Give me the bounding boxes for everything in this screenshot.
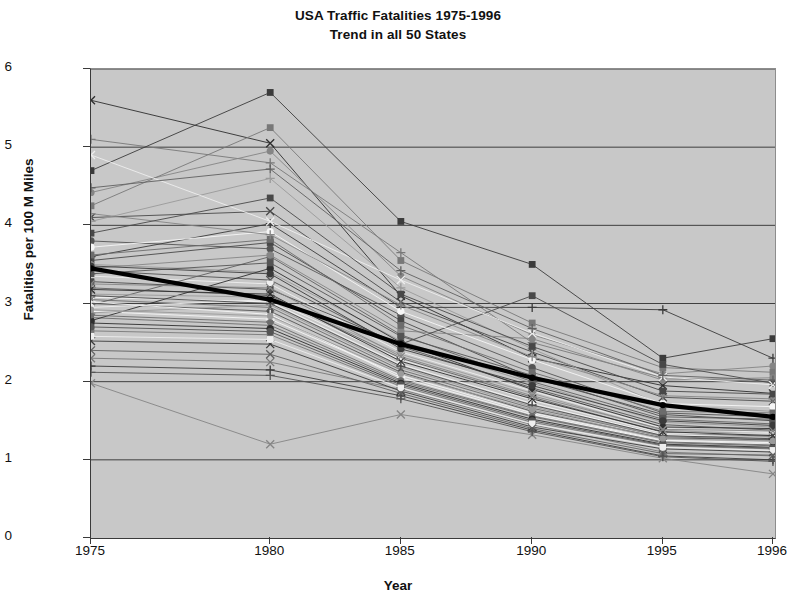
x-marker xyxy=(91,151,95,159)
y-axis-tick-mark xyxy=(83,381,90,382)
plus-marker xyxy=(528,303,537,312)
y-axis-tick-mark xyxy=(83,537,90,538)
plus-marker xyxy=(91,362,96,371)
square-marker xyxy=(267,89,274,96)
square-marker xyxy=(659,361,666,368)
series-path xyxy=(91,294,773,435)
y-axis-tick-mark xyxy=(83,459,90,460)
dot-marker xyxy=(267,296,273,302)
dot-marker xyxy=(398,371,404,377)
circle-marker xyxy=(769,362,775,369)
series-path xyxy=(91,100,773,393)
dot-marker xyxy=(529,375,535,381)
chart-subtitle: Trend in all 50 States xyxy=(0,25,796,44)
series-line xyxy=(91,253,775,427)
square-marker xyxy=(91,333,94,340)
square-marker xyxy=(397,291,404,298)
x-axis-tick-label: 1990 xyxy=(486,543,576,558)
series-path xyxy=(91,300,773,434)
circle-marker xyxy=(267,245,274,252)
dot-marker xyxy=(660,436,666,442)
series-line xyxy=(91,237,775,420)
square-marker xyxy=(770,391,775,398)
x-axis-tick-label: 1996 xyxy=(727,543,796,558)
series-line xyxy=(91,319,775,450)
plus-marker xyxy=(768,354,775,363)
plus-marker xyxy=(396,266,405,275)
chart-title-block: USA Traffic Fatalities 1975-1996 Trend i… xyxy=(0,6,796,44)
circle-marker xyxy=(267,270,274,277)
circle-marker xyxy=(91,244,95,251)
y-axis-tick-mark xyxy=(83,68,90,69)
dot-marker xyxy=(398,341,404,347)
plus-marker xyxy=(396,248,405,257)
circle-marker xyxy=(267,251,274,258)
series-line xyxy=(91,290,775,439)
dot-marker xyxy=(529,407,535,413)
y-axis-tick-mark xyxy=(83,303,90,304)
square-marker xyxy=(529,261,536,268)
plus-marker xyxy=(266,371,275,380)
y-axis-label: Fatalities per 100 M Miles xyxy=(21,120,36,360)
square-marker xyxy=(91,167,94,174)
square-marker xyxy=(91,230,94,237)
square-marker xyxy=(659,388,666,395)
y-axis-tick-label: 6 xyxy=(0,59,12,74)
circle-marker xyxy=(529,382,536,389)
series-path xyxy=(91,151,773,374)
series-path xyxy=(91,257,773,424)
x-axis-tick-label: 1995 xyxy=(617,543,707,558)
x-marker xyxy=(266,440,274,448)
y-axis-tick-label: 3 xyxy=(0,294,12,309)
y-axis-tick-label: 1 xyxy=(0,450,12,465)
square-marker xyxy=(397,333,404,340)
x-axis-tick-label: 1980 xyxy=(224,543,314,558)
y-axis-tick-label: 0 xyxy=(0,528,12,543)
circle-marker xyxy=(267,328,274,335)
series-path xyxy=(91,169,773,380)
plot-area xyxy=(90,68,776,539)
y-axis-tick-label: 5 xyxy=(0,137,12,152)
square-marker xyxy=(91,252,94,259)
square-marker xyxy=(397,322,404,329)
square-marker xyxy=(659,444,666,451)
x-marker xyxy=(266,139,274,147)
plus-marker xyxy=(658,305,667,314)
dot-marker xyxy=(267,313,273,319)
x-axis-tick-label: 1985 xyxy=(355,543,445,558)
y-axis-tick-mark xyxy=(83,224,90,225)
series-canvas xyxy=(91,69,775,538)
y-axis-tick-label: 4 xyxy=(0,215,12,230)
y-axis-tick-mark xyxy=(83,146,90,147)
square-marker xyxy=(529,292,536,299)
square-marker xyxy=(770,335,775,342)
square-marker xyxy=(659,408,666,415)
square-marker xyxy=(397,257,404,264)
plus-marker xyxy=(91,368,96,377)
page-title: USA Traffic Fatalities 1975-1996 xyxy=(0,6,796,25)
square-marker xyxy=(267,259,274,266)
circle-marker xyxy=(659,417,666,424)
dot-marker xyxy=(660,402,666,408)
circle-marker xyxy=(267,147,274,154)
y-axis-tick-label: 2 xyxy=(0,372,12,387)
series-path xyxy=(91,289,773,435)
square-marker xyxy=(529,343,536,350)
square-marker xyxy=(267,124,274,131)
square-marker xyxy=(267,195,274,202)
x-axis-tick-label: 1975 xyxy=(45,543,135,558)
plus-marker xyxy=(91,135,96,144)
square-marker xyxy=(267,336,274,343)
square-marker xyxy=(659,355,666,362)
x-marker xyxy=(91,96,95,104)
dot-marker xyxy=(267,319,273,325)
plus-marker xyxy=(266,165,275,174)
x-axis-label: Year xyxy=(0,578,796,593)
chart-page: USA Traffic Fatalities 1975-1996 Trend i… xyxy=(0,0,796,610)
plus-marker xyxy=(396,301,405,310)
circle-marker xyxy=(91,237,95,244)
square-marker xyxy=(91,202,94,209)
x-marker xyxy=(91,379,95,387)
square-marker xyxy=(397,218,404,225)
